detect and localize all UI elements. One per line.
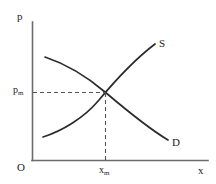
demand-curve-label: D	[172, 137, 180, 148]
equilibrium-price-subscript: m	[18, 89, 23, 97]
supply-curve	[43, 44, 155, 137]
origin-label: O	[17, 162, 25, 173]
diagram-canvas	[0, 0, 216, 184]
supply-curve-label: S	[159, 38, 165, 49]
equilibrium-quantity-subscript: m	[104, 169, 109, 177]
supply-demand-diagram: p x O pm xm S D	[0, 0, 216, 184]
x-axis-label: x	[198, 165, 204, 176]
equilibrium-price-label: pm	[13, 85, 23, 95]
equilibrium-quantity-label: xm	[99, 165, 109, 175]
y-axis-label: p	[17, 11, 23, 22]
